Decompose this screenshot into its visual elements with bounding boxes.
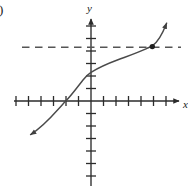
y-axis: y	[86, 2, 96, 186]
y-axis-label: y	[86, 2, 92, 14]
function-curve	[31, 23, 167, 134]
x-axis: x	[14, 96, 188, 110]
x-axis-label: x	[182, 98, 188, 110]
graph-figure: ) x	[0, 0, 188, 189]
intersection-point-marker	[150, 44, 155, 49]
coordinate-plane-svg: ) x	[0, 0, 188, 189]
panel-label: )	[0, 2, 3, 17]
